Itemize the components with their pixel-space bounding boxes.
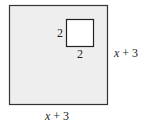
inner-square: [67, 20, 94, 47]
inner-left-label: 2: [57, 26, 63, 40]
inner-bottom-label: 2: [77, 47, 83, 61]
outer-bottom-label: x + 3: [44, 109, 69, 123]
outer-right-label: x + 3: [113, 46, 138, 60]
diagram: 2 2 x + 3 x + 3: [0, 0, 150, 125]
